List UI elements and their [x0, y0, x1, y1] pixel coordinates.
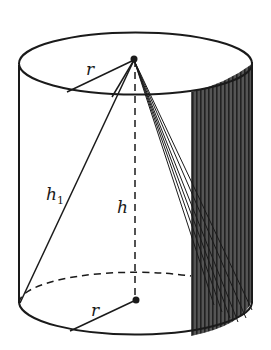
label-height: h	[117, 197, 128, 217]
apex-point	[131, 56, 138, 63]
label-bottom-radius: r	[91, 300, 100, 320]
bottom-center-point	[133, 297, 140, 304]
cylinder-cone-diagram: r h1 h r	[0, 0, 271, 350]
label-slant-height: h1	[46, 184, 64, 207]
bottom-ellipse-back	[19, 272, 191, 303]
label-top-radius: r	[86, 59, 95, 79]
slant-height-line	[20, 60, 134, 303]
bottom-radius-line	[70, 300, 136, 331]
